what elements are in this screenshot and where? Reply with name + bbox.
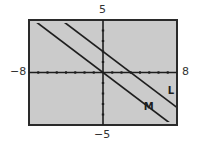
y-tick — [102, 40, 104, 42]
y-tick — [102, 61, 104, 63]
x-tick — [56, 71, 58, 73]
x-tick — [93, 71, 95, 73]
y-tick — [102, 103, 104, 105]
x-tick — [37, 71, 39, 73]
x-tick — [111, 71, 113, 73]
x-tick — [84, 71, 86, 73]
calculator-graph-screen: LM — [0, 0, 206, 147]
y-tick — [102, 93, 104, 95]
x-tick — [65, 71, 67, 73]
x-tick — [167, 71, 169, 73]
x-tick — [148, 71, 150, 73]
y-tick — [102, 114, 104, 116]
y-tick — [102, 30, 104, 32]
x-tick — [74, 71, 76, 73]
y-tick — [102, 82, 104, 84]
x-tick — [139, 71, 141, 73]
line-label-l: L — [168, 85, 175, 96]
line-label-m: M — [144, 101, 154, 112]
x-tick — [121, 71, 123, 73]
x-tick — [158, 71, 160, 73]
x-tick — [47, 71, 49, 73]
